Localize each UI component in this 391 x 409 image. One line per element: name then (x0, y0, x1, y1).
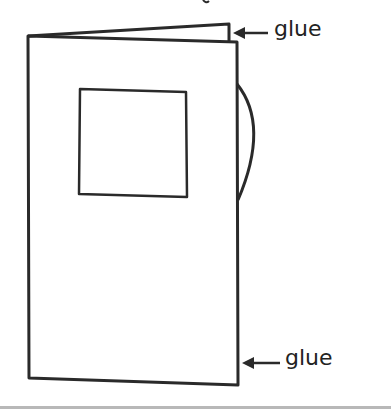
cut-off-text-fragment (203, 0, 209, 2)
spine-curve (237, 84, 254, 200)
top-glue-label: glue (274, 16, 322, 41)
booklet-front-cover (28, 36, 238, 385)
cover-window (79, 89, 187, 197)
top-glue-arrow-icon (233, 27, 268, 39)
bottom-glue-arrow-icon (242, 357, 280, 369)
bottom-glue-label: glue (285, 345, 333, 370)
